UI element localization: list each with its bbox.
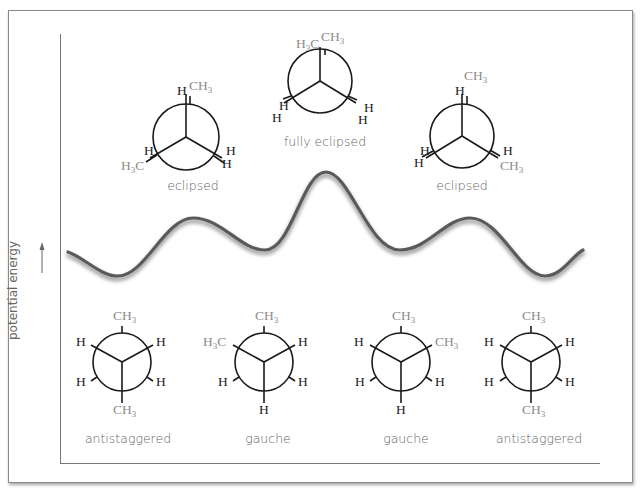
atom-ch3: CH3	[189, 78, 213, 95]
label-antistaggered-1: antistaggered	[85, 431, 171, 446]
svg-text:H: H	[259, 402, 269, 417]
atom-ch3: CH3	[321, 29, 345, 46]
y-axis-arrow-icon	[40, 242, 45, 273]
label-antistaggered-2: antistaggered	[496, 431, 582, 446]
axes	[60, 34, 600, 464]
svg-text:H: H	[298, 374, 308, 389]
atom-h: H	[414, 155, 424, 170]
svg-text:CH3: CH3	[522, 402, 546, 419]
atom-ch3: CH3	[500, 158, 524, 175]
svg-text:H: H	[76, 374, 86, 389]
newman-eclipsed-1	[146, 94, 224, 170]
label-fully-eclipsed: fully eclipsed	[284, 134, 366, 149]
atom-ch3: CH3	[464, 68, 488, 85]
newman-eclipsed-3	[422, 94, 500, 168]
conformation-diagram: H CH3 H H3C H H H3C CH3 H H H H H CH3 H	[0, 0, 641, 494]
svg-text:CH3: CH3	[113, 402, 137, 419]
newman-gauche-1	[233, 326, 295, 403]
svg-text:H: H	[76, 334, 86, 349]
atom-h3c: H3C	[121, 158, 144, 175]
svg-text:H: H	[565, 374, 575, 389]
atom-h: H	[144, 143, 154, 158]
svg-text:CH3: CH3	[522, 308, 546, 325]
svg-text:H: H	[435, 374, 445, 389]
eclipsed-1-atoms: H CH3 H H3C H H	[121, 78, 236, 175]
atom-h: H	[503, 143, 513, 158]
gauche-2-atoms: CH3 H CH3 H H H	[354, 308, 459, 417]
antistaggered-2-atoms: CH3 H H H H CH3	[484, 308, 575, 419]
atom-h: H	[177, 83, 187, 98]
newman-antistaggered-2	[500, 326, 562, 403]
eclipsed-3-atoms: H CH3 H H H CH3	[414, 68, 524, 175]
atom-h: H	[455, 83, 465, 98]
energy-curve	[68, 172, 583, 276]
svg-text:H: H	[355, 374, 365, 389]
svg-text:CH3: CH3	[113, 308, 137, 325]
svg-text:H: H	[354, 334, 364, 349]
antistaggered-1-atoms: CH3 H H H H CH3	[76, 308, 166, 419]
svg-text:H3C: H3C	[203, 334, 226, 351]
svg-text:H: H	[396, 402, 406, 417]
newman-antistaggered-1	[91, 326, 153, 403]
label-eclipsed-1: eclipsed	[167, 178, 219, 193]
svg-text:H: H	[565, 334, 575, 349]
svg-text:H: H	[298, 334, 308, 349]
label-gauche-1: gauche	[245, 431, 291, 446]
newman-gauche-2	[370, 326, 432, 403]
label-gauche-2: gauche	[383, 431, 429, 446]
y-axis-label: potential energy	[6, 241, 20, 340]
svg-text:H: H	[218, 374, 228, 389]
svg-text:CH3: CH3	[392, 308, 416, 325]
label-eclipsed-3: eclipsed	[436, 178, 488, 193]
atom-h: H	[358, 112, 368, 127]
atom-h3c: H3C	[296, 36, 319, 53]
atom-h: H	[222, 156, 232, 171]
svg-text:CH3: CH3	[255, 308, 279, 325]
svg-text:H: H	[156, 374, 166, 389]
svg-text:H: H	[156, 334, 166, 349]
svg-text:H: H	[484, 374, 494, 389]
atom-h: H	[272, 110, 282, 125]
newman-fully-eclipsed	[283, 47, 357, 113]
svg-text:H: H	[484, 334, 494, 349]
svg-text:CH3: CH3	[435, 334, 459, 351]
